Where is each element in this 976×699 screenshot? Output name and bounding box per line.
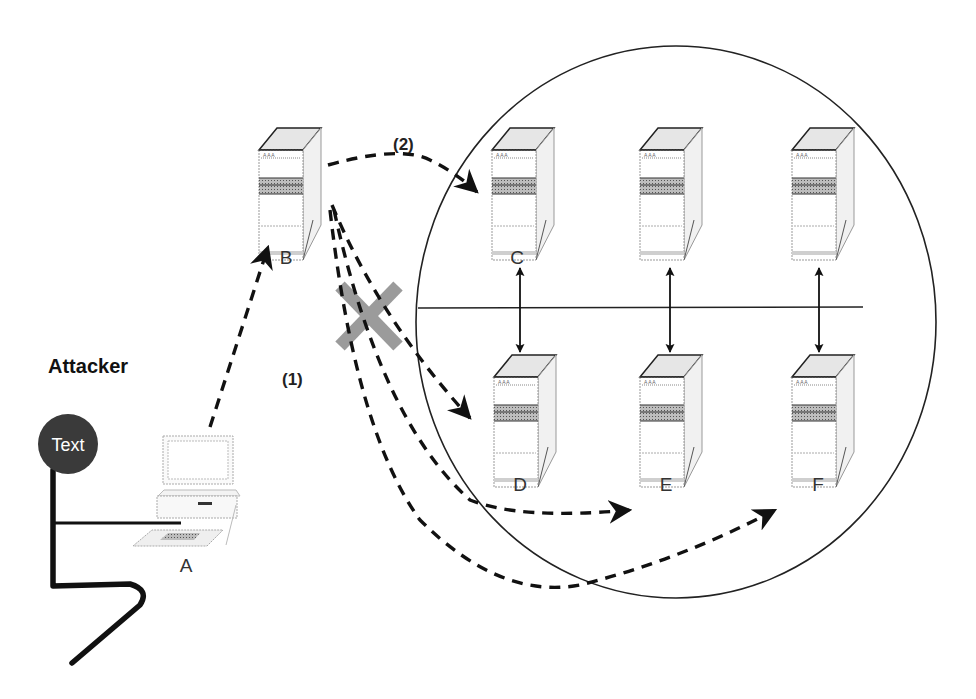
server-c-icon xyxy=(492,128,554,260)
node-label-a: A xyxy=(180,555,193,576)
node-label-d: D xyxy=(513,474,527,495)
step-label-1: (1) xyxy=(282,370,303,389)
path-b-to-c xyxy=(328,154,477,192)
lan-bus-line xyxy=(418,307,863,308)
server-d-icon xyxy=(494,355,556,487)
node-label-c: C xyxy=(510,247,524,268)
path-b-to-e xyxy=(334,210,630,513)
attack-diagram: A A A Text Attacker xyxy=(0,0,976,699)
path-b-to-d xyxy=(332,205,470,418)
server-b-icon xyxy=(259,128,321,260)
node-label-b: B xyxy=(280,247,293,268)
attacker-title: Attacker xyxy=(48,355,128,377)
server-f-icon xyxy=(792,355,854,487)
step-label-2: (2) xyxy=(393,135,414,154)
workstation-a-icon xyxy=(133,436,240,546)
server-top-middle-icon xyxy=(640,128,702,260)
node-label-e: E xyxy=(660,474,673,495)
path-a-to-b xyxy=(210,247,268,427)
attacker-badge-text: Text xyxy=(51,435,84,455)
server-e-icon xyxy=(640,355,702,487)
server-top-right-icon xyxy=(792,128,854,260)
node-label-f: F xyxy=(812,474,824,495)
